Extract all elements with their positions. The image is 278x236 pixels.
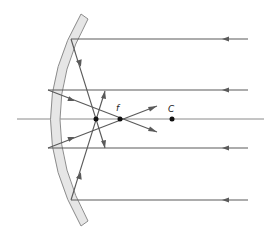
center-of-curvature-label: C	[168, 104, 175, 114]
arrow-icon	[148, 127, 157, 133]
arrow-icon	[222, 146, 229, 151]
focal-point	[118, 117, 123, 122]
marginal-focus-point	[94, 117, 99, 122]
arrow-icon	[222, 88, 229, 93]
arrow-icon	[101, 91, 106, 99]
arrow-icon	[222, 198, 229, 203]
concave-mirror-diagram: f C	[0, 0, 278, 236]
reflected-ray-1	[71, 39, 105, 148]
arrow-icon	[222, 37, 229, 42]
focal-point-label: f	[116, 103, 121, 113]
reflected-ray-4	[71, 91, 105, 200]
center-of-curvature-point	[170, 117, 175, 122]
concave-mirror	[51, 14, 89, 226]
arrow-icon	[148, 106, 157, 112]
arrow-icon	[101, 140, 106, 148]
